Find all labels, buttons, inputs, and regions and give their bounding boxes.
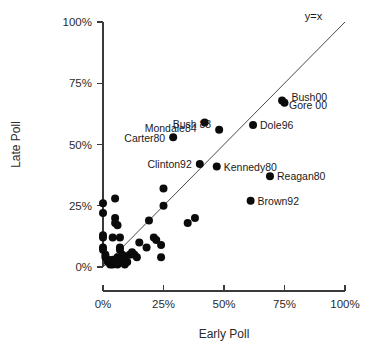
data-point-label: Clinton92 xyxy=(147,158,192,170)
data-point xyxy=(184,219,192,227)
data-point-label: Reagan80 xyxy=(277,170,326,182)
data-point xyxy=(99,234,107,242)
data-point-label: Dole96 xyxy=(260,119,293,131)
y-tick-label: 0% xyxy=(75,261,92,273)
data-point-labeled xyxy=(247,197,255,205)
data-point-labeled xyxy=(215,126,223,134)
point-labels: Gore 00Bush00Dole96Mondale84Bush 88Carte… xyxy=(124,91,327,207)
data-point xyxy=(111,194,119,202)
x-tick-label: 75% xyxy=(273,298,296,310)
data-point xyxy=(191,214,199,222)
data-point xyxy=(145,216,153,224)
y-axis-title: Late Poll xyxy=(9,121,23,168)
data-point xyxy=(135,239,143,247)
data-point xyxy=(157,241,165,249)
data-point xyxy=(114,221,122,229)
data-point-labeled xyxy=(281,99,289,107)
data-point xyxy=(160,202,168,210)
x-axis-title: Early Poll xyxy=(199,327,250,341)
data-point xyxy=(157,253,165,261)
y-tick-label: 50% xyxy=(69,139,92,151)
data-point-labeled xyxy=(266,172,274,180)
data-point-labeled xyxy=(213,163,221,171)
reference-line-label: y=x xyxy=(305,10,323,22)
data-point xyxy=(143,243,151,251)
data-point xyxy=(133,253,141,261)
x-axis xyxy=(103,285,345,291)
x-tick-label: 25% xyxy=(152,298,175,310)
data-point xyxy=(99,209,107,217)
scatter-chart: y=x Gore 00Bush00Dole96Mondale84Bush 88C… xyxy=(0,0,370,354)
data-point xyxy=(116,234,124,242)
data-point-label: Bush00 xyxy=(292,91,328,103)
x-tick-label: 0% xyxy=(95,298,112,310)
data-point xyxy=(99,199,107,207)
data-point xyxy=(116,243,124,251)
data-point xyxy=(160,185,168,193)
y-tick-label: 25% xyxy=(69,200,92,212)
data-point-labeled xyxy=(196,160,204,168)
data-point xyxy=(109,234,117,242)
data-point-label: Kennedy80 xyxy=(224,161,277,173)
identity-line xyxy=(103,22,345,267)
data-point-label: Brown92 xyxy=(258,195,300,207)
data-point xyxy=(123,258,131,266)
data-point-label: Carter80 xyxy=(124,132,165,144)
y-tick-label: 75% xyxy=(69,77,92,89)
y-tick-label: 100% xyxy=(63,16,92,28)
x-tick-label: 50% xyxy=(212,298,235,310)
y-axis xyxy=(97,22,103,267)
chart-canvas: y=x Gore 00Bush00Dole96Mondale84Bush 88C… xyxy=(0,0,370,354)
x-tick-label: 100% xyxy=(330,298,359,310)
data-point-label: Bush 88 xyxy=(173,118,212,130)
data-point-labeled xyxy=(249,121,257,129)
